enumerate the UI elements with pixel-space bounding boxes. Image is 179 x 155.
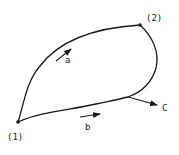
curve-b [18, 97, 128, 122]
point-2-dot [138, 23, 142, 27]
point-1-dot [16, 120, 20, 124]
curve-right [128, 25, 157, 97]
curve-c-label: C [162, 103, 167, 113]
path-b-label: b [85, 122, 90, 132]
point-2-label: (2) [146, 13, 162, 23]
path-a-label: a [65, 55, 70, 65]
arrow-b-icon [80, 114, 100, 117]
point-1-label: (1) [7, 132, 23, 142]
path-diagram: (1) (2) a b C [0, 0, 179, 155]
arrow-c-icon [128, 97, 157, 105]
